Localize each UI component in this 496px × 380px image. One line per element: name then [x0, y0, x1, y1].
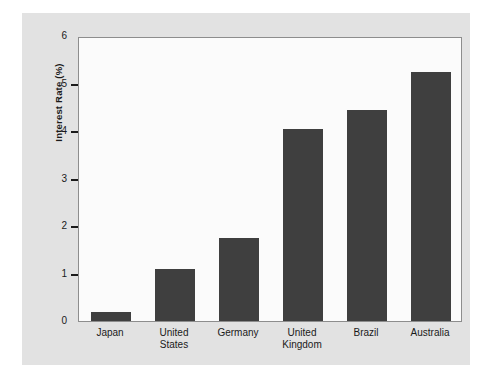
y-axis-tick-mark [71, 274, 78, 276]
y-axis-tick-mark [71, 84, 78, 86]
y-axis-tick-label: 1 [27, 268, 67, 279]
bar [411, 72, 451, 321]
bar [283, 129, 323, 321]
x-axis-tick-label: Japan [78, 327, 142, 339]
x-axis-tick-label: Germany [206, 327, 270, 339]
bar [91, 312, 131, 322]
x-axis-tick-label: United Kingdom [270, 327, 334, 351]
plot-area [78, 37, 462, 322]
x-axis-tick-label: Brazil [334, 327, 398, 339]
y-axis-tick-label: 2 [27, 220, 67, 231]
y-axis-tick-mark [71, 131, 78, 133]
x-axis-tick-label: Australia [398, 327, 462, 339]
y-axis-tick-label: 5 [27, 78, 67, 89]
y-axis-title: Interest Rate (%) [53, 23, 64, 183]
y-axis-tick-label: 3 [27, 173, 67, 184]
y-axis-tick-mark [71, 179, 78, 181]
y-axis-tick-label: 6 [27, 30, 67, 41]
chart-figure: Interest Rate (%) 0123456 JapanUnited St… [22, 13, 470, 365]
x-axis-tick-label: United States [142, 327, 206, 351]
y-axis-tick-label: 0 [27, 315, 67, 326]
bar [347, 110, 387, 321]
bar [155, 269, 195, 321]
bar [219, 238, 259, 321]
y-axis-tick-label: 4 [27, 125, 67, 136]
y-axis-tick-mark [71, 226, 78, 228]
